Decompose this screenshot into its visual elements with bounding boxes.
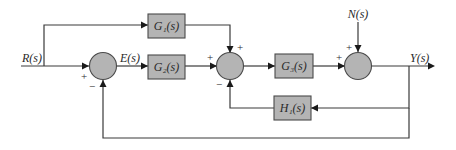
h1-feedback-wire-out: [230, 80, 274, 108]
sum1-minus-sign: −: [89, 80, 95, 92]
block-g2: G₂(s): [148, 55, 185, 79]
signal-n-label: N(s): [347, 7, 369, 21]
sum2-top-plus-sign: +: [237, 41, 243, 53]
sum2-minus-sign: −: [216, 78, 222, 90]
summing-junction-2: [217, 53, 244, 80]
block-g3-label: G₃(s): [281, 59, 307, 73]
arrow-icon: [355, 45, 362, 52]
arrow-icon: [311, 105, 318, 112]
summing-junction-1: [90, 53, 117, 80]
arrow-icon: [141, 22, 148, 29]
sum1-plus-sign: +: [81, 70, 87, 82]
signal-y-label: Y(s): [410, 51, 429, 65]
block-g3: G₃(s): [275, 54, 313, 78]
summing-junction-3: [345, 53, 372, 80]
signal-r-label: R(s): [21, 51, 42, 65]
sum3-left-plus-sign: +: [336, 51, 342, 63]
signal-e-label: E(s): [119, 51, 140, 65]
sum3-top-plus-sign: +: [346, 41, 352, 53]
sum2-left-plus-sign: +: [207, 51, 213, 63]
g1-output-wire: [185, 25, 230, 53]
block-g2-label: G₂(s): [154, 60, 180, 74]
block-h1-label: H₁(s): [279, 101, 306, 115]
block-g1: G₁(s): [148, 14, 185, 38]
arrow-icon: [141, 63, 148, 70]
block-h1: H₁(s): [274, 96, 311, 120]
arrow-icon: [268, 63, 275, 70]
arrow-icon: [100, 80, 107, 87]
block-diagram: G₁(s) G₂(s) G₃(s) H₁(s) R(s) E(s) N(s) Y…: [0, 0, 456, 150]
arrow-icon: [227, 80, 234, 87]
unity-feedback-wire: [103, 80, 409, 138]
arrow-icon: [82, 63, 89, 70]
arrow-icon: [210, 63, 217, 70]
block-g1-label: G₁(s): [154, 19, 180, 33]
